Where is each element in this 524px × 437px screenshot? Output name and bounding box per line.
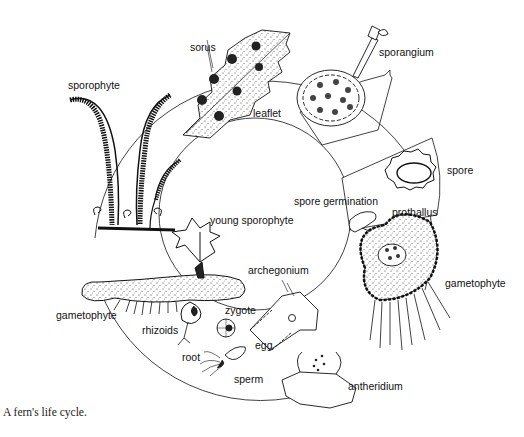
- sporangium-illustration: [297, 26, 388, 126]
- label-spore: spore: [447, 165, 473, 176]
- zygote-illustration: [217, 319, 235, 337]
- label-sperm: sperm: [234, 374, 263, 385]
- label-archegonium: archegonium: [248, 265, 309, 276]
- label-gametophyte-right: gametophyte: [445, 278, 506, 289]
- label-leaflet: leaflet: [253, 108, 281, 119]
- gametophyte-heart-illustration: [361, 214, 451, 350]
- label-zygote: zygote: [225, 305, 256, 316]
- label-sporangium: sporangium: [379, 47, 434, 58]
- label-prothallus: prothallus: [392, 207, 438, 218]
- label-gametophyte-left: gametophyte: [56, 310, 117, 321]
- label-young-sporophyte: young sporophyte: [210, 215, 293, 226]
- label-sorus: sorus: [190, 42, 216, 53]
- label-antheridium: antheridium: [348, 381, 403, 392]
- figure-caption: A fern's life cycle.: [3, 406, 87, 418]
- label-rhizoids: rhizoids: [142, 325, 178, 336]
- label-root: root: [182, 352, 200, 363]
- label-spore-germination: spore germination: [294, 196, 378, 207]
- antheridium-illustration: [282, 352, 356, 408]
- sperm-illustration: [200, 347, 245, 376]
- label-sporophyte: sporophyte: [68, 80, 120, 91]
- label-egg: egg: [255, 340, 273, 351]
